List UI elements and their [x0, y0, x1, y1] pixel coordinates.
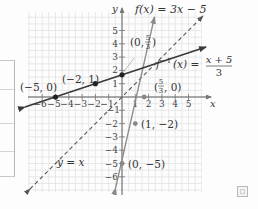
point-label-m5-0: (−5, 0) — [20, 81, 57, 93]
y-axis-label: y — [111, 3, 118, 14]
x-tick-label: 3 — [159, 99, 165, 109]
y-tick-label: −3 — [105, 132, 119, 142]
y-tick-label: −5 — [105, 159, 119, 169]
point-label-0-5over3: (0, 5 3 ) — [130, 34, 156, 51]
f-equation-label: f(x) = 3x − 5 — [134, 3, 206, 16]
label-denominator: 3 — [159, 87, 163, 95]
y-tick-label: −2 — [105, 119, 118, 129]
point-m5-0 — [53, 94, 58, 99]
x-tick-label: −5 — [47, 99, 61, 109]
y-tick-label: 5 — [112, 26, 118, 36]
function-inverse-graph: −6 −5 −4 −3 −2 −1 1 2 3 4 5 5 4 3 2 1 −1… — [0, 0, 258, 209]
x-axis-label: x — [210, 98, 216, 109]
expand-button[interactable] — [237, 186, 248, 197]
y-tick-label: 4 — [112, 39, 118, 49]
f-inverse-equation-label: f −1 (x) = x + 5 3 — [155, 54, 232, 78]
y-tick-label: −1 — [107, 105, 120, 115]
y-tick-label: −6 — [105, 172, 119, 182]
label-denominator: 3 — [146, 43, 150, 51]
point-label-5over3-0: ( 5 3 , 0) — [154, 78, 181, 95]
x-tick-label: 5 — [186, 99, 192, 109]
finv-denominator: 3 — [216, 67, 222, 78]
point-label-m2-1: (−2, 1) — [62, 73, 99, 85]
label-part: , 0) — [164, 81, 181, 93]
label-part: ) — [152, 36, 156, 48]
label-part: (0, — [130, 36, 144, 48]
y-tick-label: 2 — [112, 65, 118, 75]
point-label-1-m2: (1, −2) — [141, 118, 178, 130]
x-tick-label: 4 — [172, 99, 178, 109]
point-5over3-0 — [142, 95, 147, 100]
x-tick-label: −2 — [87, 99, 100, 109]
y-tick-label: −4 — [105, 145, 119, 155]
finv-numerator: x + 5 — [206, 54, 233, 65]
y-tick-label: 3 — [112, 52, 118, 62]
x-tick-label: −3 — [74, 99, 88, 109]
point-1-m2 — [133, 121, 138, 126]
point-label-0-m5: (0, −5) — [128, 158, 165, 170]
identity-label: y = x — [56, 156, 84, 168]
label-part: ( — [154, 81, 158, 93]
y-tick-label: 1 — [112, 79, 118, 89]
label-numerator: 5 — [159, 78, 163, 86]
finv-mid: (x) = — [173, 58, 199, 70]
finv-superscript: −1 — [161, 57, 171, 65]
x-tick-label: 2 — [146, 99, 152, 109]
label-numerator: 5 — [146, 34, 150, 42]
x-tick-label: −4 — [60, 99, 74, 109]
point-0-m5 — [120, 161, 125, 166]
point-0-5over3 — [119, 72, 124, 77]
